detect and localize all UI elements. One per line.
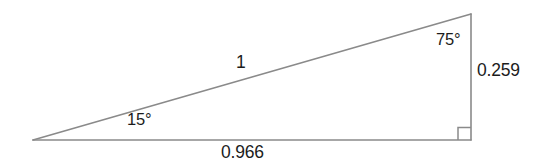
angle-left-label: 15° <box>127 111 151 128</box>
side-bottom-label: 0.966 <box>221 144 264 162</box>
triangle-graphic <box>0 0 543 165</box>
right-angle-marker-icon <box>458 128 471 141</box>
triangle-diagram: 1 15° 75° 0.259 0.966 <box>0 0 543 165</box>
hypotenuse-label: 1 <box>236 54 246 72</box>
angle-right-label: 75° <box>436 31 460 48</box>
hypotenuse-line <box>33 14 471 140</box>
side-right-label: 0.259 <box>477 62 520 80</box>
